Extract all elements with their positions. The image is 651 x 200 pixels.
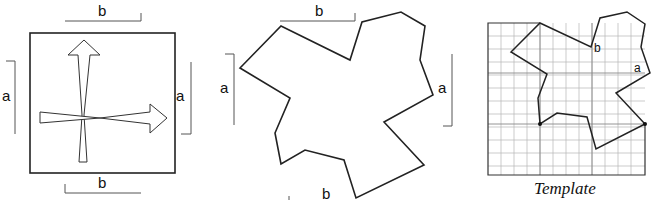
label-right-a: a — [176, 87, 185, 104]
vertex-dot — [643, 122, 647, 126]
horizontal-arrow — [40, 104, 167, 133]
label-bottom-b: b — [98, 174, 106, 191]
cropped-text-top — [0, 0, 140, 2]
panel-1: b b a a — [2, 2, 191, 193]
label-left-a: a — [220, 79, 229, 96]
figure-canvas: b b a a b a a b — [0, 0, 651, 200]
caption: Template — [534, 179, 596, 198]
vertical-arrow — [68, 40, 100, 162]
panel-2: b a a b — [220, 2, 452, 200]
square-frame — [30, 33, 175, 173]
label-top-b: b — [315, 2, 323, 19]
label-right-a: a — [438, 79, 447, 96]
star-polygon — [240, 12, 433, 198]
label-bottom-b: b — [322, 185, 330, 200]
label-a: a — [634, 61, 641, 75]
label-b: b — [594, 41, 601, 55]
template-polygon — [511, 12, 650, 149]
label-top-b: b — [98, 2, 106, 19]
panel-3: b a Template — [488, 12, 650, 198]
label-left-a: a — [2, 87, 11, 104]
vertex-dot — [538, 122, 542, 126]
